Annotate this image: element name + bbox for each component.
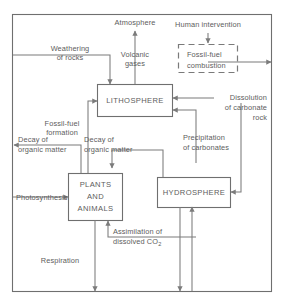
label-fossil-fuel-formation-line2: formation [46, 128, 78, 137]
label-plants-line1: PLANTS [80, 180, 112, 189]
label-assimilation-line1: Assimilation of [113, 227, 163, 236]
label-atmosphere: Atmosphere [115, 18, 156, 27]
label-assimilation-line2: dissolved CO2 [113, 237, 161, 247]
flow-atmosphere-into-hydrosphere [231, 103, 241, 192]
label-dissolution-line2: of carbonate [225, 103, 267, 112]
label-weathering-line1: Weathering [51, 44, 90, 53]
label-plants-line2: AND [87, 192, 104, 201]
label-dissolution-line3: rock [253, 113, 268, 122]
label-weathering-line2: of rocks [57, 53, 84, 62]
label-decay-left-line1: Decay of [18, 135, 49, 144]
label-fossil-fuel-combustion-line1: Fossil-fuel [187, 50, 222, 59]
label-fossil-fuel-formation-line1: Fossil-fuel [45, 119, 80, 128]
label-assimilation-subscript: 2 [158, 241, 161, 247]
carbon-cycle-diagram: Atmosphere Human intervention Volcanic g… [0, 0, 283, 308]
carbon-cycle-svg: Atmosphere Human intervention Volcanic g… [0, 0, 283, 308]
label-lithosphere: LITHOSPHERE [106, 96, 163, 105]
label-hydrosphere: HYDROSPHERE [163, 188, 226, 197]
label-respiration: Respiration [41, 256, 79, 265]
label-precipitation-line1: Precipitation [183, 133, 225, 142]
label-plants-line3: ANIMALS [78, 204, 114, 213]
flow-decay-organic-matter-right [112, 150, 163, 177]
label-human-intervention: Human intervention [175, 20, 241, 29]
label-volcanic-gases-line2: gases [125, 59, 145, 68]
label-assimilation-line2-text: dissolved CO [113, 237, 158, 246]
label-decay-left-line2: organic matter [18, 145, 67, 154]
label-decay-right-line1: Decay of [84, 135, 115, 144]
label-dissolution-line1: Dissolution [230, 93, 267, 102]
label-decay-right-line2: organic matter [84, 145, 133, 154]
label-precipitation-line2: of carbonates [183, 143, 229, 152]
label-photosynthesis: Photosynthesis [16, 193, 68, 202]
label-volcanic-gases-line1: Volcanic [121, 50, 150, 59]
label-fossil-fuel-combustion-line2: combustion [187, 61, 226, 70]
